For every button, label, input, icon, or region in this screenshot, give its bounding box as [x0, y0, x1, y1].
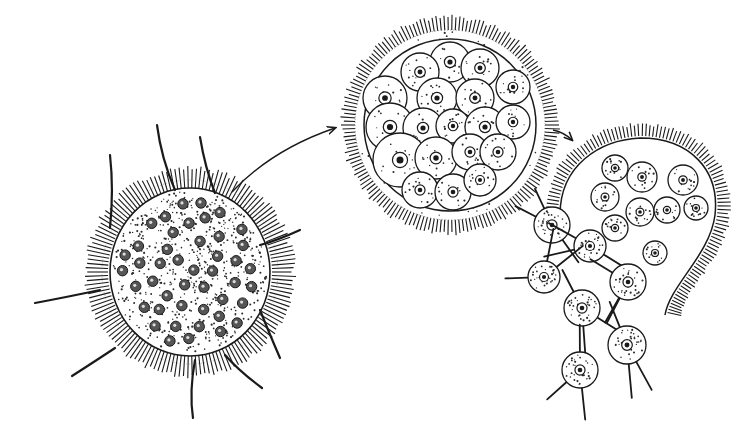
nucleolus	[626, 280, 631, 285]
nucleolus	[418, 188, 423, 193]
nucleolus	[625, 343, 630, 348]
nucleolus	[681, 178, 685, 182]
nucleolus	[418, 70, 423, 75]
encysted-cell-with-daughter-cells	[340, 15, 560, 235]
zoospore-flagellum	[582, 388, 585, 420]
nucleolus	[578, 368, 583, 373]
nucleolus	[613, 166, 617, 170]
flagellum	[260, 310, 280, 358]
zoospore-flagellum	[547, 382, 566, 399]
nucleolus	[468, 150, 473, 155]
nucleolus	[542, 275, 546, 279]
nucleolus	[433, 155, 438, 160]
nucleolus	[420, 125, 425, 130]
zoospore-flagellum	[535, 189, 544, 209]
nucleolus	[613, 226, 617, 230]
nucleolus	[482, 124, 487, 129]
arrow-1-to-2	[232, 128, 335, 192]
flagellum	[35, 290, 100, 303]
nucleolus	[511, 120, 515, 124]
nucleolus	[511, 85, 515, 89]
zoospore-flagellum	[562, 270, 573, 292]
zoospore-flagellum	[629, 364, 632, 398]
zoospore-flagellum	[505, 278, 528, 279]
nucleolus	[473, 96, 478, 101]
arrow-2-to-3	[553, 130, 572, 140]
nucleolus	[447, 59, 452, 64]
flagellum	[200, 137, 215, 193]
nucleolus	[451, 190, 456, 195]
mature-multinucleate-cell	[35, 125, 300, 418]
nucleolus	[580, 306, 585, 311]
flagellum	[110, 155, 112, 228]
nucleolus	[451, 124, 455, 128]
nucleolus	[694, 206, 698, 210]
nucleolus	[387, 124, 393, 130]
life-cycle-illustration	[0, 0, 755, 439]
nucleolus	[396, 156, 403, 163]
nucleolus	[434, 95, 439, 100]
flagellum	[225, 355, 262, 388]
zoospore-flagellum	[590, 259, 612, 272]
nucleolus	[640, 175, 644, 179]
zoospore-flagellum	[636, 362, 652, 390]
nucleolus	[603, 195, 607, 199]
nucleolus	[653, 251, 657, 255]
nucleolus	[588, 244, 592, 248]
nucleolus	[478, 178, 482, 182]
nucleolus	[382, 95, 388, 101]
nucleolus	[478, 66, 483, 71]
flagellum	[72, 348, 115, 376]
nucleolus	[638, 210, 642, 214]
zoospore-flagellum	[515, 206, 536, 217]
nucleolus	[496, 150, 501, 155]
nucleolus	[665, 208, 669, 212]
